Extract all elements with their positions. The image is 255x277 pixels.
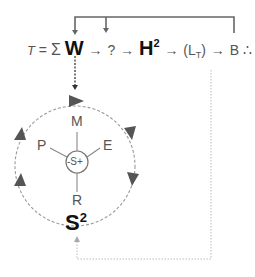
arrow-icon: → — [88, 40, 102, 60]
lt-term: (LT) — [183, 40, 206, 65]
arrowhead-right-upper-icon — [124, 126, 136, 140]
label-m: M — [71, 113, 83, 129]
arrow-icon: → — [120, 40, 134, 60]
s-superscript: 2 — [80, 210, 87, 225]
t-label: T — [27, 41, 35, 61]
label-e: E — [103, 137, 112, 153]
h-base: H — [139, 38, 153, 58]
feedback-arrowhead-icon — [74, 236, 80, 242]
arrowhead-left-lower-icon — [14, 173, 26, 186]
arrow-icon: → — [164, 40, 178, 60]
label-p: P — [37, 137, 46, 153]
arrowhead-top-icon — [69, 95, 84, 107]
equation: T = Σ W → ? → H2 → (LT) → B ∴ ? — [27, 33, 255, 65]
lt-close: ) — [201, 40, 206, 60]
sigma-symbol: Σ — [51, 40, 61, 60]
h-term: H2 — [139, 33, 160, 58]
top-bracket — [75, 17, 234, 33]
s-squared-label: S2 — [65, 210, 87, 236]
w-term: W — [65, 38, 84, 58]
s-base: S — [65, 210, 80, 235]
label-r: R — [72, 192, 82, 208]
equals-sign: = — [39, 40, 47, 60]
feedback-loop — [77, 70, 211, 259]
center-label: -S+ — [67, 156, 83, 167]
lt-open: (L — [183, 40, 195, 60]
therefore-symbol: ∴ — [243, 40, 252, 60]
b-term: B — [230, 40, 239, 60]
arrowhead-right-lower-icon — [127, 172, 139, 186]
h-superscript: 2 — [153, 37, 159, 49]
unknown-term-1: ? — [107, 40, 115, 60]
arrow-icon: → — [211, 40, 225, 60]
